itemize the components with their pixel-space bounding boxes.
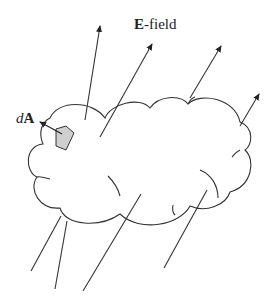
closed-surface <box>28 98 251 225</box>
area-vector-symbol: A <box>24 110 35 126</box>
area-element-label: dA <box>16 110 34 127</box>
field-line-2 <box>100 44 152 137</box>
field-line-5 <box>31 216 61 271</box>
gauss-surface-diagram <box>0 0 274 300</box>
e-field-text: -field <box>144 16 176 32</box>
e-field-label: E-field <box>134 16 177 33</box>
field-line-7 <box>83 194 141 291</box>
area-element-patch <box>56 126 74 150</box>
field-line-6 <box>55 221 67 289</box>
field-line-3 <box>190 46 221 98</box>
e-field-symbol: E <box>134 16 144 32</box>
field-line-4 <box>240 94 259 126</box>
field-line-8 <box>164 190 207 268</box>
field-line-1 <box>85 26 100 120</box>
differential-d: d <box>16 110 24 126</box>
